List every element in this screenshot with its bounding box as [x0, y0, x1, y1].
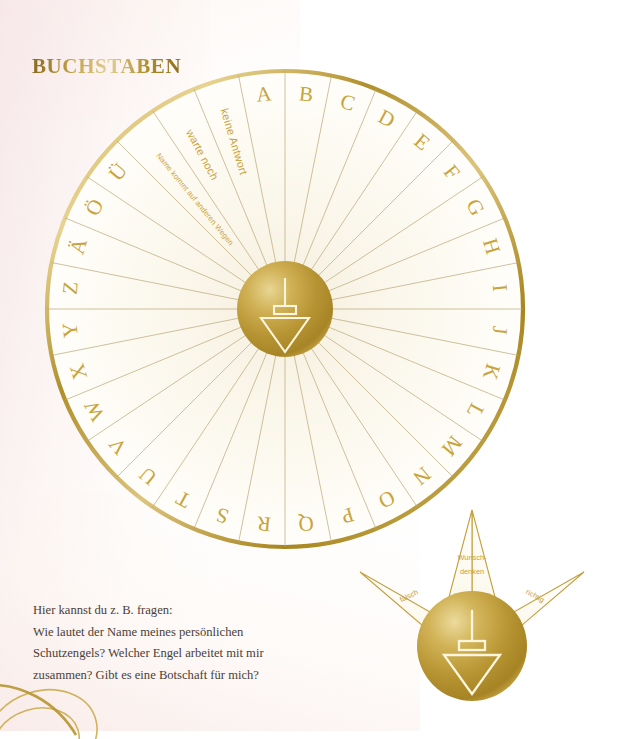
answer-wheel-hub[interactable]	[417, 591, 527, 701]
question-line-1: Hier kannst du z. B. fragen:	[33, 600, 333, 622]
example-questions: Hier kannst du z. B. fragen: Wie lautet …	[33, 600, 333, 687]
wheel-letter[interactable]: Z	[57, 280, 82, 295]
wheel-letter[interactable]: R	[256, 511, 272, 536]
ray-label-wunschdenken-line2: denken	[460, 567, 484, 576]
wheel-letter[interactable]: Y	[57, 321, 82, 338]
answer-wheel[interactable]: falsch Wunsch- denken richtig	[358, 506, 586, 671]
question-line-4: zusammen? Gibt es eine Botschaft für mic…	[33, 665, 333, 687]
wheel-letter[interactable]: B	[298, 81, 314, 106]
letter-wheel[interactable]: keine Antwortwarte nochName kommt auf an…	[42, 66, 528, 552]
question-line-2: Wie lautet der Name meines persönlichen	[33, 622, 333, 644]
wheel-hub[interactable]	[237, 261, 333, 357]
wheel-letter[interactable]: Q	[297, 511, 314, 536]
ray-label-wunschdenken-line1: Wunsch-	[457, 553, 487, 562]
question-line-3: Schutzengels? Welcher Engel arbeitet mit…	[33, 643, 333, 665]
